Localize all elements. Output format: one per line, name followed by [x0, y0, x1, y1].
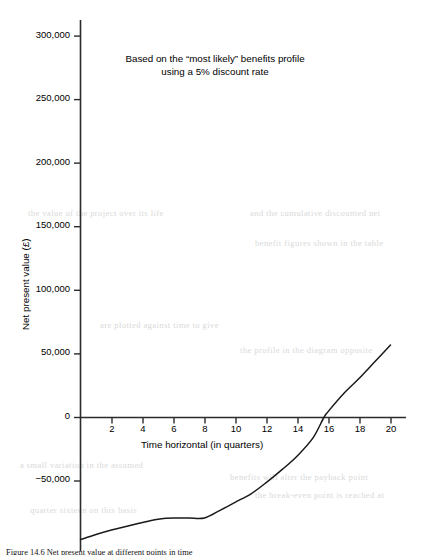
y-tick-label: 300,000	[0, 30, 70, 41]
x-tick-label: 14	[283, 424, 313, 435]
chart-title-line-2: using a 5% discount rate	[85, 65, 345, 78]
x-tick-label: 2	[97, 424, 127, 435]
x-axis-title: Time horizontal (in quarters)	[141, 439, 263, 450]
x-tick-label: 16	[314, 424, 344, 435]
y-tick-label-negative: −50,000	[0, 474, 70, 485]
y-axis-ticks	[74, 36, 81, 481]
plot-area	[0, 0, 421, 555]
figure-container: the value of the project over its life a…	[0, 0, 421, 555]
x-tick-label: 20	[376, 424, 406, 435]
y-tick-label: 100,000	[0, 284, 70, 295]
x-tick-label: 10	[221, 424, 251, 435]
chart-title: Based on the “most likely” benefits prof…	[85, 52, 345, 78]
y-tick-label: 150,000	[0, 220, 70, 231]
y-axis-title: Net present value (£)	[20, 239, 31, 330]
y-tick-label: 50,000	[0, 347, 70, 358]
x-tick-label: 4	[128, 424, 158, 435]
y-tick-label: 0	[0, 411, 70, 422]
x-tick-label: 6	[159, 424, 189, 435]
x-tick-label: 8	[190, 424, 220, 435]
y-tick-label: 200,000	[0, 157, 70, 168]
y-tick-label: 250,000	[0, 93, 70, 104]
x-tick-label: 18	[345, 424, 375, 435]
x-tick-label: 12	[252, 424, 282, 435]
x-axis-ticks	[112, 418, 391, 424]
figure-caption: Figure 14.6 Net present value at differe…	[6, 548, 416, 555]
chart-title-line-1: Based on the “most likely” benefits prof…	[85, 52, 345, 65]
